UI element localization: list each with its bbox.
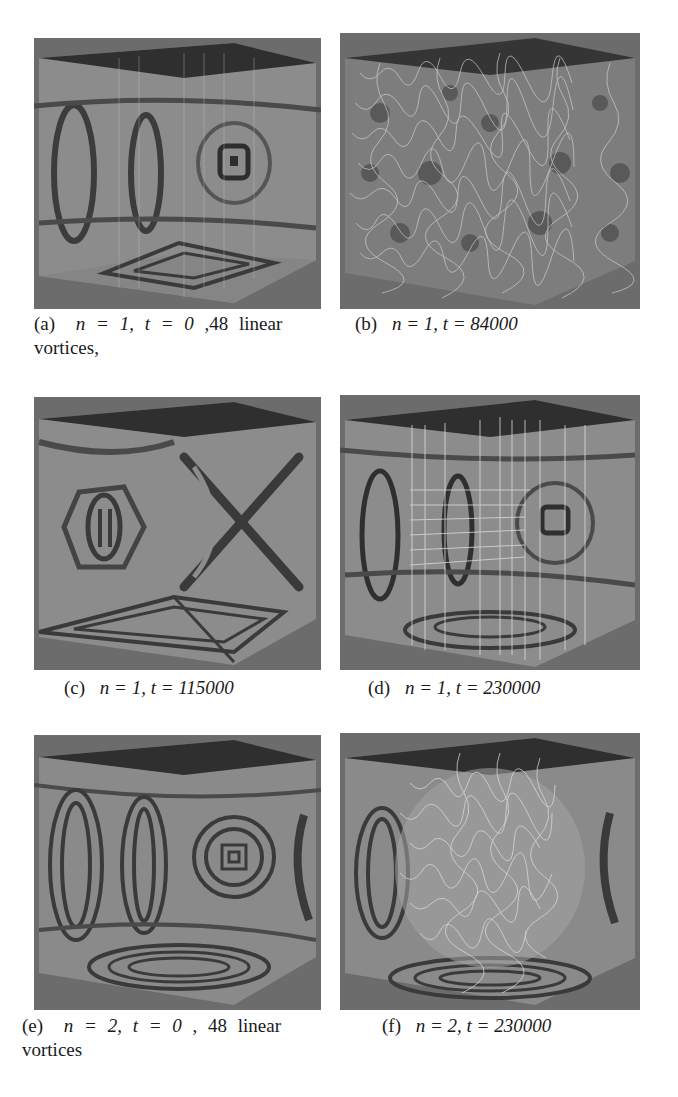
caption-a-text: ,48 linear <box>205 313 283 334</box>
caption-d-math: n = 1, t = 230000 <box>405 677 540 698</box>
panel-e-image <box>34 735 321 1010</box>
panel-b-image <box>340 33 640 309</box>
caption-c-label: (c) <box>64 677 85 698</box>
fringe-pattern-e <box>34 735 321 1010</box>
caption-e-math: n = 2, t = 0 <box>64 1015 182 1036</box>
fringe-pattern-f <box>340 733 640 1010</box>
fringe-pattern-d <box>340 395 640 670</box>
caption-b-label: (b) <box>355 313 377 334</box>
fringe-pattern-a <box>34 38 321 309</box>
caption-c: (c) n = 1, t = 115000 <box>64 676 234 700</box>
panel-c-image <box>34 397 321 670</box>
caption-f: (f) n = 2, t = 230000 <box>382 1014 551 1038</box>
caption-b-math: n = 1, t = 84000 <box>392 313 518 334</box>
caption-a: (a) n = 1, t = 0 ,48 linear vortices, <box>34 312 282 360</box>
caption-a-label: (a) <box>34 313 55 334</box>
caption-f-label: (f) <box>382 1015 401 1036</box>
caption-c-math: n = 1, t = 115000 <box>100 677 234 698</box>
panel-d-image <box>340 395 640 670</box>
caption-f-math: n = 2, t = 230000 <box>416 1015 551 1036</box>
caption-b: (b) n = 1, t = 84000 <box>355 312 518 336</box>
fringe-pattern-c <box>34 397 321 670</box>
panel-a-image <box>34 38 321 309</box>
caption-e: (e) n = 2, t = 0 , 48 linear vortices <box>22 1014 281 1062</box>
caption-e-line2: vortices <box>22 1038 281 1062</box>
panel-f-image <box>340 733 640 1010</box>
caption-e-text: , 48 linear <box>193 1015 282 1036</box>
caption-d-label: (d) <box>368 677 390 698</box>
caption-d: (d) n = 1, t = 230000 <box>368 676 540 700</box>
caption-a-math: n = 1, t = 0 <box>76 313 194 334</box>
vortex-tangle-b <box>340 33 640 309</box>
caption-a-line2: vortices, <box>34 336 282 360</box>
caption-e-label: (e) <box>22 1015 43 1036</box>
